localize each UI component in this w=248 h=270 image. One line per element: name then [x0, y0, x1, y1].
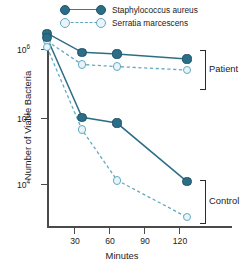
x-axis-label: Minutes [47, 250, 197, 261]
x-tick-label-60: 60 [95, 236, 125, 246]
y-tick-1e5 [41, 118, 47, 119]
legend-dot-filled-left [60, 5, 70, 15]
data-point-s3-30min [78, 125, 87, 134]
data-point-s2-60min [112, 118, 121, 127]
plot-lines [0, 0, 248, 270]
data-point-s0-120min [182, 54, 191, 63]
data-point-s3-60min [113, 176, 122, 185]
bracket-label-control: Control [209, 195, 239, 206]
data-point-s1-120min [183, 66, 192, 75]
x-tick-90 [144, 228, 145, 234]
data-point-s0-60min [112, 49, 121, 58]
y-tick-exponent-1e6: 6 [27, 43, 31, 50]
data-point-s1-60min [113, 62, 122, 71]
data-point-s3-120min [183, 213, 192, 222]
legend-entry-serratia-marcescens: Serratia marcescens [60, 17, 188, 29]
data-point-s2-0min [42, 33, 51, 42]
bracket-label-patient: Patient [209, 63, 238, 74]
data-point-s1-30min [78, 60, 87, 69]
data-point-s0-30min [77, 48, 86, 57]
legend-label-serratia-marcescens: Serratia marcescens [112, 18, 188, 28]
data-point-s2-30min [77, 113, 86, 122]
series-line-2 [47, 38, 187, 182]
legend-marker-open-dashed [60, 17, 108, 29]
legend-dot-open-left [60, 18, 70, 28]
x-tick-label-30: 30 [60, 236, 90, 246]
legend-entry-staphylococcus-aureus: Staphylococcus aureus [60, 4, 198, 16]
data-point-s2-120min [182, 177, 191, 186]
y-axis-line [47, 30, 49, 228]
x-tick-label-120: 120 [165, 236, 195, 246]
legend-dot-filled-right [96, 5, 106, 15]
x-tick-60 [109, 228, 110, 234]
y-axis-label: Number of Viable Bacteria [22, 51, 33, 201]
x-tick-30 [74, 228, 75, 234]
legend-marker-filled-solid [60, 4, 108, 16]
data-point-s3-0min [43, 43, 52, 52]
legend-label-staphylococcus-aureus: Staphylococcus aureus [112, 5, 198, 15]
x-tick-label-90: 90 [130, 236, 160, 246]
bracket-control [200, 180, 206, 224]
legend-dot-open-right [96, 18, 106, 28]
series-line-3 [47, 47, 187, 217]
chart-figure: Staphylococcus aureus Serratia marcescen… [0, 0, 248, 270]
x-tick-120 [179, 228, 180, 234]
bracket-patient [200, 50, 206, 90]
y-tick-1e4 [41, 184, 47, 185]
